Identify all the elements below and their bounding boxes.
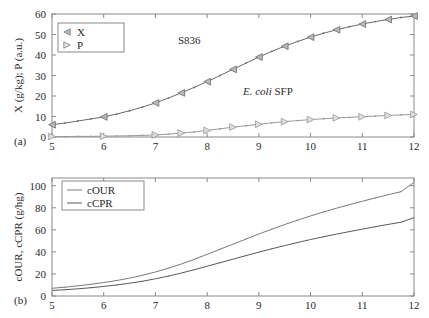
series-marker-x [333,26,340,33]
series-point [90,118,92,120]
series-point [400,114,402,116]
series-marker-p [178,130,185,137]
y-tick-label: 100 [30,180,47,192]
series-point [116,135,118,137]
series-marker-x [359,21,366,28]
series-point [271,122,273,124]
series-marker-x [178,90,185,97]
figure-container: 567891011120102030405060X (g/kg); P (a.u… [0,0,429,318]
x-tick-label: 8 [204,299,210,311]
panel-label-a: (a) [14,135,27,148]
series-point [297,120,299,122]
series-point [142,275,143,276]
series-point [271,229,272,230]
series-point [168,268,169,269]
panel-label-b: (b) [14,294,27,307]
series-point [116,280,117,281]
y-tick-label: 20 [35,268,47,280]
legend-label-x: X [77,26,85,38]
series-marker-x [281,43,288,50]
series-point [323,236,324,237]
series-point [116,284,117,285]
annotation-organism-rest: SFP [272,85,293,97]
x-tick-label: 12 [409,140,420,152]
series-point [77,120,79,122]
x-tick-label: 8 [204,140,210,152]
y-tick-label: 50 [35,29,47,41]
series-marker-p [385,112,392,119]
x-tick-label: 10 [305,299,317,311]
series-curve-ccpr [52,218,414,291]
legend-panel-b[interactable]: cOURcCPR [62,181,144,210]
y-tick-label: 0 [41,131,47,143]
series-point [375,226,376,227]
x-tick-label: 7 [153,299,159,311]
x-tick-label: 10 [305,140,317,152]
y-axis-label: cOUR, cCPR (g/hg) [12,192,25,281]
series-point [297,242,298,243]
series-marker-x [100,114,107,121]
series-point [90,135,92,137]
series-marker-x [307,34,314,41]
x-tick-label: 5 [49,299,55,311]
series-point [64,287,65,288]
x-tick-label: 11 [357,140,368,152]
series-point [375,197,376,198]
legend-panel-a[interactable]: XP [58,23,124,52]
y-tick-label: 60 [35,8,47,20]
series-point [323,211,324,212]
series-marker-p [230,124,237,131]
series-point [116,113,118,115]
two-panel-plot: 567891011120102030405060X (g/kg); P (a.u… [0,0,429,318]
series-marker-x [255,54,262,61]
series-marker-x [385,16,392,23]
y-tick-label: 30 [35,70,47,82]
x-tick-label: 12 [409,299,420,311]
series-point [167,97,169,99]
y-tick-label: 80 [35,202,47,214]
annotation-strain: S836 [178,34,201,46]
legend-box [58,23,124,52]
x-tick-label: 6 [101,299,107,311]
series-point [245,239,246,240]
x-tick-label: 7 [153,140,159,152]
series-point [297,41,299,43]
series-marker-x [204,78,211,85]
series-point [129,110,131,112]
series-point [193,86,195,88]
series-point [297,220,298,221]
series-point [77,135,79,137]
series-point [401,222,402,223]
y-tick-label: 40 [35,246,47,258]
series-marker-p [281,118,288,125]
y-tick-label: 40 [35,49,47,61]
series-point [168,276,169,277]
series-point [64,122,66,124]
series-marker-x [230,66,237,73]
series-marker-p [255,121,262,128]
series-point [219,128,221,130]
x-tick-label: 5 [49,140,55,152]
series-point [245,62,247,64]
series-point [90,284,91,285]
y-tick-label: 0 [41,290,47,302]
series-marker-p [307,116,314,123]
series-point [349,204,350,205]
series-point [323,118,325,120]
series-point [220,262,221,263]
series-point [271,248,272,249]
y-axis-label: X (g/kg); P (a.u.) [12,38,25,113]
series-point [90,287,91,288]
x-tick-label: 11 [357,299,368,311]
series-point [374,115,376,117]
series-marker-x [152,100,159,107]
series-point [271,50,273,52]
series-point [348,116,350,118]
series-point [142,106,144,108]
series-point [219,75,221,77]
series-point [64,136,66,138]
x-tick-label: 9 [256,140,262,152]
annotation-organism: E. coli SFP [242,85,293,97]
y-tick-label: 20 [35,90,47,102]
series-point [194,269,195,270]
